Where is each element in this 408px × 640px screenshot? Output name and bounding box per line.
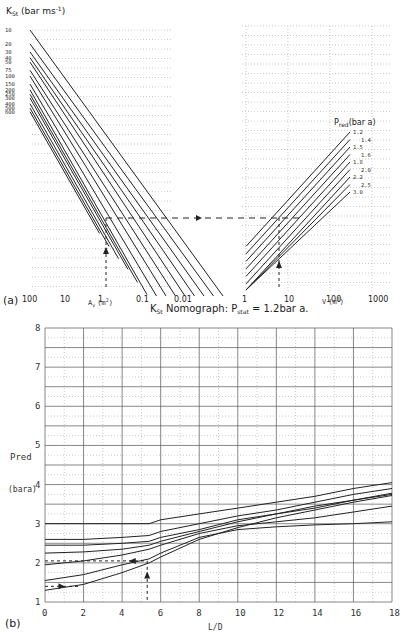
nomograph-figure: KSt (bar ms-1) 1020304050751001502002503… (0, 0, 408, 640)
y-tick-label: 8 (35, 323, 40, 333)
volume-tick-label: 1000 (368, 295, 388, 304)
kst-grid (32, 30, 172, 287)
pred-lines (246, 132, 350, 290)
x-tick-label: 10 (235, 608, 246, 618)
pred-tick-label: 1.5 (353, 144, 363, 150)
area-tick-label: 0.1 (136, 295, 149, 304)
x-tick-label: 14 (312, 608, 323, 618)
pred-tick-label: 3.0 (353, 189, 363, 195)
kst-line (30, 58, 195, 296)
pred-line (246, 132, 350, 246)
kst-axis-title: KSt (bar ms-1) (6, 5, 65, 17)
kst-tick-label: 10 (5, 27, 12, 33)
kst-line (30, 52, 204, 296)
y-tick-label: 5 (35, 440, 40, 450)
kst-line (30, 98, 128, 270)
kst-line (30, 76, 166, 296)
pred-tick-label: 1.2 (353, 129, 363, 135)
kst-tick-label: 600 (5, 109, 15, 115)
y-tick-label: 6 (35, 401, 40, 411)
y-tick-label: 7 (35, 362, 40, 372)
ld-x-axis-title: L/D (208, 623, 223, 632)
pred-line (246, 155, 350, 269)
kst-tick-labels: 102030405075100150200250300400500600 (5, 27, 15, 115)
pred-line (246, 147, 350, 261)
x-tick-label: 16 (350, 608, 361, 618)
x-tick-label: 12 (273, 608, 284, 618)
kst-panel: KSt (bar ms-1) 1020304050751001502002503… (3, 5, 223, 308)
pred-tick-label: 2.0 (361, 167, 371, 173)
pred-legend-title: Pred(bar a) (334, 118, 376, 128)
kst-tick-label: 50 (5, 59, 12, 65)
volume-panel: Pred(bar a) 1.21.41.51.61.82.02.22.53.0 … (242, 26, 392, 306)
x-tick-label: 8 (196, 608, 201, 618)
pred-line (246, 162, 350, 276)
volume-axis-title: V(m3) (322, 296, 344, 306)
kst-line (30, 70, 176, 296)
ld-y-ticks: 12345678 (35, 323, 40, 607)
area-tick-label: 100 (22, 295, 37, 304)
y-tick-label: 3 (35, 519, 40, 529)
series-line (45, 496, 392, 591)
pred-tick-labels: 1.21.41.51.61.82.02.22.53.0 (353, 129, 372, 195)
right-arrow-icon (196, 215, 202, 221)
kst-line (30, 84, 157, 296)
ld-y-axis-title: Pred (10, 452, 32, 462)
x-tick-label: 6 (158, 608, 163, 618)
kst-line (30, 94, 138, 282)
up-arrow-icon (276, 261, 282, 268)
pred-tick-label: 1.6 (361, 152, 371, 158)
nomograph-title: KSt Nomograph: Pstat = 1.2bar a. (150, 303, 308, 315)
pred-tick-label: 1.8 (353, 159, 363, 165)
kst-line (30, 104, 119, 259)
panel-a-label: (a) (3, 294, 18, 307)
area-axis-title: Av(m2) (88, 297, 113, 308)
pred-tick-label: 2.2 (353, 174, 363, 180)
ld-y-axis-unit: (bara) (8, 485, 37, 494)
kst-line (30, 108, 109, 246)
x-tick-label: 18 (389, 608, 400, 618)
pred-line (246, 170, 350, 284)
pred-tick-label: 2.5 (361, 182, 371, 188)
x-tick-label: 0 (42, 608, 47, 618)
pred-line (246, 192, 350, 290)
panel-b-label: (b) (5, 617, 21, 630)
x-tick-label: 2 (81, 608, 86, 618)
kst-line (30, 62, 185, 296)
y-tick-label: 2 (35, 558, 40, 568)
ld-panel: 12345678 024681012141618 Pred (bara) L/D… (5, 323, 400, 632)
right-arrow-icon (58, 583, 64, 589)
kst-tick-label: 100 (5, 73, 15, 79)
up-arrow-icon (144, 572, 150, 579)
kst-tick-label: 20 (5, 41, 12, 47)
pred-line (246, 177, 350, 290)
volume-tick-label: 1 (242, 295, 247, 304)
kst-lines (30, 30, 223, 296)
volume-grid (242, 26, 392, 292)
pred-tick-label: 1.4 (361, 137, 372, 143)
up-arrow-icon (103, 247, 109, 254)
area-tick-label: 10 (60, 295, 70, 304)
ld-grid (45, 328, 392, 602)
y-tick-label: 1 (35, 597, 40, 607)
ld-x-ticks: 024681012141618 (42, 608, 400, 618)
x-tick-label: 4 (119, 608, 124, 618)
